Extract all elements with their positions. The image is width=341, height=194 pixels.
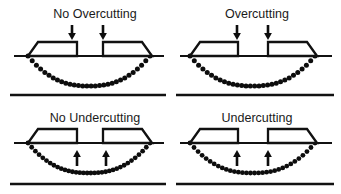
- mask-feature-left: [28, 42, 77, 56]
- etch-dot: [287, 75, 292, 80]
- etch-dot: [131, 70, 136, 75]
- etch-dot: [105, 82, 110, 87]
- etch-dot: [200, 67, 205, 72]
- etch-dot: [300, 67, 305, 72]
- etch-dot: [292, 159, 297, 164]
- etch-dot: [282, 78, 287, 83]
- etch-dot: [228, 168, 233, 173]
- etch-dot: [235, 83, 240, 88]
- etch-dot: [213, 75, 218, 80]
- etch-dot: [72, 83, 77, 88]
- etch-dot: [192, 145, 197, 150]
- etch-dot: [244, 83, 249, 88]
- panel-label-undercutting: Undercutting: [222, 111, 293, 125]
- panel-label-overcutting: Overcutting: [225, 7, 289, 21]
- etch-dot: [126, 73, 131, 78]
- etch-dot: [68, 82, 73, 87]
- etch-dot: [308, 58, 313, 63]
- etch-dot: [30, 58, 35, 63]
- mask-feature-right: [103, 129, 152, 143]
- etch-dot: [232, 169, 237, 174]
- etch-dot: [248, 83, 253, 88]
- etch-dot: [97, 83, 102, 88]
- mask-feature-right: [268, 129, 317, 143]
- mask-feature-left: [190, 129, 238, 143]
- etch-dot: [284, 164, 289, 169]
- etch-dot: [47, 73, 52, 78]
- etch-dot: [37, 152, 42, 157]
- etch-dot: [291, 73, 296, 78]
- etch-dot: [133, 155, 138, 160]
- etching-profile-figure: No OvercuttingOvercuttingNo Undercutting…: [0, 0, 341, 194]
- etch-dot: [135, 67, 140, 72]
- etch-dot: [239, 83, 244, 88]
- etch-dot: [305, 149, 310, 154]
- etch-dot: [196, 63, 201, 68]
- etch-dot: [252, 83, 257, 88]
- etch-dot: [196, 149, 201, 154]
- etch-dot: [208, 159, 213, 164]
- etch-dot: [256, 83, 261, 88]
- etch-dot: [218, 78, 223, 83]
- etch-dot: [265, 83, 270, 88]
- etch-dot: [204, 156, 209, 161]
- etch-dot: [192, 58, 197, 63]
- etch-dot: [29, 145, 34, 150]
- etch-dot: [140, 149, 145, 154]
- etch-dot: [137, 152, 142, 157]
- etch-dot: [269, 82, 274, 87]
- etch-dot: [296, 156, 301, 161]
- etch-dot: [278, 79, 283, 84]
- etch-dot: [139, 63, 144, 68]
- etch-dot: [122, 75, 127, 80]
- etch-dot: [264, 170, 269, 175]
- mask-feature-right: [268, 42, 317, 56]
- etch-dot: [309, 145, 314, 150]
- etch-dot: [304, 63, 309, 68]
- etch-dot: [200, 153, 205, 158]
- mask-feature-left: [190, 42, 238, 56]
- etch-dot: [301, 153, 306, 158]
- etch-dot: [222, 79, 227, 84]
- etch-dot: [42, 70, 47, 75]
- etch-dot: [295, 70, 300, 75]
- panel-label-no-overcutting: No Overcutting: [53, 7, 136, 21]
- etch-dot: [33, 149, 38, 154]
- etch-dot: [288, 162, 293, 167]
- panel-label-no-undercutting: No Undercutting: [50, 111, 140, 125]
- etch-dot: [143, 58, 148, 63]
- mask-feature-left: [28, 129, 77, 143]
- etch-dot: [205, 70, 210, 75]
- mask-feature-right: [103, 42, 152, 56]
- etch-dot: [144, 145, 149, 150]
- etch-dot: [101, 83, 106, 88]
- etch-dot: [63, 81, 68, 86]
- etch-dot: [226, 81, 231, 86]
- etch-dot: [268, 169, 273, 174]
- etch-dot: [212, 162, 217, 167]
- etch-dot: [261, 83, 266, 88]
- etch-dot: [34, 63, 39, 68]
- etch-dot: [274, 81, 279, 86]
- etch-dot: [209, 73, 214, 78]
- etch-dot: [38, 67, 43, 72]
- etch-dot: [231, 82, 236, 87]
